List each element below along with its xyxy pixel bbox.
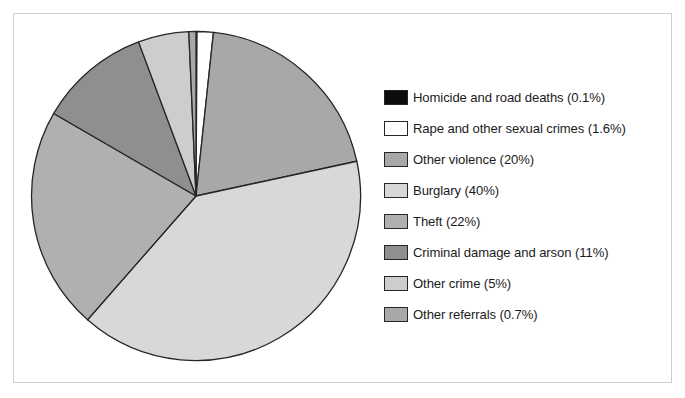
legend-item[interactable]: Burglary (40%) bbox=[384, 175, 668, 206]
legend-item[interactable]: Other crime (5%) bbox=[384, 268, 668, 299]
chart-legend: Homicide and road deaths (0.1%)Rape and … bbox=[384, 82, 668, 330]
legend-swatch-criminal-damage-and-arson bbox=[384, 245, 408, 260]
legend-item[interactable]: Theft (22%) bbox=[384, 206, 668, 237]
legend-item[interactable]: Other violence (20%) bbox=[384, 144, 668, 175]
legend-item-label: Other crime (5%) bbox=[413, 276, 511, 291]
legend-item-label: Other violence (20%) bbox=[413, 152, 534, 167]
legend-swatch-burglary bbox=[384, 183, 408, 198]
pie-chart-area bbox=[30, 30, 362, 362]
legend-swatch-theft bbox=[384, 214, 408, 229]
pie-chart-svg bbox=[30, 30, 362, 362]
legend-swatch-homicide-and-road-deaths bbox=[384, 90, 408, 105]
legend-item[interactable]: Other referrals (0.7%) bbox=[384, 299, 668, 330]
legend-item[interactable]: Rape and other sexual crimes (1.6%) bbox=[384, 113, 668, 144]
legend-item[interactable]: Criminal damage and arson (11%) bbox=[384, 237, 668, 268]
legend-swatch-other-violence bbox=[384, 152, 408, 167]
legend-item-label: Criminal damage and arson (11%) bbox=[413, 245, 608, 260]
legend-swatch-other-referrals bbox=[384, 307, 408, 322]
legend-item-label: Rape and other sexual crimes (1.6%) bbox=[413, 121, 626, 136]
pie-chart-figure: Homicide and road deaths (0.1%)Rape and … bbox=[0, 0, 685, 398]
legend-item[interactable]: Homicide and road deaths (0.1%) bbox=[384, 82, 668, 113]
pie-slice-group bbox=[31, 31, 360, 360]
legend-item-label: Theft (22%) bbox=[413, 214, 480, 229]
legend-item-label: Other referrals (0.7%) bbox=[413, 307, 537, 322]
legend-item-label: Homicide and road deaths (0.1%) bbox=[413, 90, 605, 105]
legend-swatch-rape-and-other-sexual-crimes bbox=[384, 121, 408, 136]
legend-swatch-other-crime bbox=[384, 276, 408, 291]
legend-item-label: Burglary (40%) bbox=[413, 183, 499, 198]
